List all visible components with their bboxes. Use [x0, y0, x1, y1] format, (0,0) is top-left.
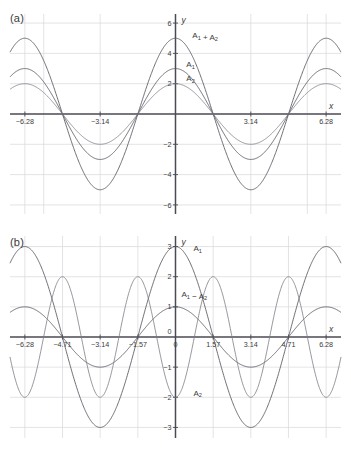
y-tick-label: 6 [168, 19, 172, 28]
x-tick-label: 3.14 [244, 340, 258, 349]
y-tick-label: −2 [163, 140, 171, 149]
x-tick-label: 1.57 [206, 340, 220, 349]
panel-label-b: (b) [10, 236, 24, 248]
y-tick-label: 2 [168, 79, 172, 88]
y-tick-label: −1 [163, 363, 171, 372]
x-tick-label: −6.28 [16, 340, 34, 349]
x-tick-label: 0 [174, 340, 178, 349]
x-tick-label: −6.28 [16, 117, 34, 126]
plot-area-a: xy−6.28−3.143.146.28642−2−4−6A1 + A2A1A2 [0, 0, 351, 228]
y-tick-label: 0 [168, 327, 172, 336]
series-label-a1: A1 [186, 60, 194, 70]
chart-panel-a: xy−6.28−3.143.146.28642−2−4−6A1 + A2A1A2… [0, 0, 351, 228]
series-label-a1-a2: A1 + A2 [192, 31, 218, 42]
x-axis-label: x [328, 324, 334, 334]
y-tick-label: 4 [168, 49, 172, 58]
y-axis-label: y [181, 15, 187, 25]
plot-area-b: xy−6.28−4.71−3.14−1.5701.573.144.716.283… [0, 228, 351, 454]
x-tick-label: −3.14 [91, 117, 109, 126]
x-tick-label: 4.71 [281, 340, 295, 349]
series-label-a2: A2 [186, 74, 194, 84]
figure-container: xy−6.28−3.143.146.28642−2−4−6A1 + A2A1A2… [0, 0, 351, 454]
chart-panel-b: xy−6.28−4.71−3.14−1.5701.573.144.716.283… [0, 228, 351, 454]
x-tick-label: 6.28 [319, 117, 333, 126]
y-tick-label: −4 [163, 170, 171, 179]
series-label-a1-a2: A1 − A2 [181, 290, 207, 301]
y-tick-label: −6 [163, 201, 171, 210]
y-tick-label: 1 [168, 302, 172, 311]
x-tick-label: −3.14 [91, 340, 109, 349]
y-tick-label: −3 [163, 423, 171, 432]
y-tick-label: −2 [163, 393, 171, 402]
x-tick-label: 6.28 [319, 340, 333, 349]
y-tick-label: 2 [168, 272, 172, 281]
series-label-a1: A1 [193, 244, 201, 254]
x-tick-label: 3.14 [244, 117, 258, 126]
x-axis-label: x [328, 101, 334, 111]
y-axis-label: y [181, 237, 187, 247]
panel-label-a: (a) [10, 12, 24, 24]
series-label-a2: A2 [193, 389, 201, 399]
